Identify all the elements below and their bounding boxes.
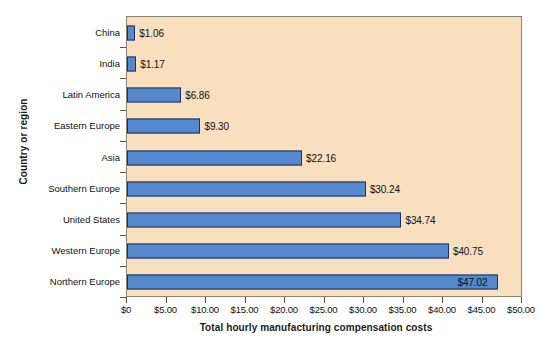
bar (127, 212, 401, 227)
bar (127, 244, 449, 259)
y-axis-tick (120, 235, 126, 236)
x-axis-tick-label: $45.00 (468, 304, 496, 315)
x-axis-tick-label: $30.00 (349, 304, 377, 315)
x-axis-tick (482, 297, 483, 303)
bar-value-label: $1.17 (140, 58, 165, 69)
bar (127, 181, 366, 196)
category-label: United States (0, 213, 120, 224)
bar-value-label: $47.02 (457, 277, 487, 288)
y-axis-tick (120, 47, 126, 48)
bar-value-label: $30.24 (370, 183, 400, 194)
bar-chart: Country or region ChinaIndiaLatin Americ… (0, 0, 542, 343)
bar (127, 119, 200, 134)
x-axis-tick-label: $5.00 (154, 304, 177, 315)
x-axis-tick (284, 297, 285, 303)
y-axis-tick (120, 141, 126, 142)
x-axis-tick (166, 297, 167, 303)
x-axis-tick (403, 297, 404, 303)
category-label: Asia (0, 151, 120, 162)
category-label: Northern Europe (0, 276, 120, 287)
plot-area: $1.06$1.17$6.86$9.30$22.16$30.24$34.74$4… (126, 16, 522, 297)
category-label-column: ChinaIndiaLatin AmericaEastern EuropeAsi… (0, 16, 120, 297)
category-label: Eastern Europe (0, 120, 120, 131)
x-axis-tick (521, 297, 522, 303)
y-axis-tick (120, 110, 126, 111)
category-label: Latin America (0, 89, 120, 100)
x-axis-tick-label: $20.00 (270, 304, 298, 315)
bar-value-label: $9.30 (204, 121, 229, 132)
x-axis-tick (126, 297, 127, 303)
x-axis-tick-label: $0 (121, 304, 131, 315)
y-axis-tick (120, 78, 126, 79)
x-axis-tick (442, 297, 443, 303)
y-axis-tick (120, 172, 126, 173)
x-axis-tick (324, 297, 325, 303)
bar-value-label: $6.86 (185, 90, 210, 101)
x-axis-tick-label: $15.00 (231, 304, 259, 315)
bar-value-label: $34.74 (405, 214, 435, 225)
x-axis-tick-label: $10.00 (191, 304, 219, 315)
category-label: China (0, 26, 120, 37)
x-axis-tick (205, 297, 206, 303)
y-axis-tick (120, 266, 126, 267)
bar-value-label: $40.75 (453, 246, 483, 257)
x-axis-tick-label: $40.00 (428, 304, 456, 315)
bar (127, 56, 136, 71)
x-axis-tick (363, 297, 364, 303)
x-axis-tick-label: $35.00 (389, 304, 417, 315)
bar (127, 275, 498, 290)
bar (127, 88, 181, 103)
bar (127, 25, 135, 40)
x-axis-tick-label: $25.00 (310, 304, 338, 315)
x-axis-tick-label: $50.00 (507, 304, 535, 315)
bar-value-label: $1.06 (139, 27, 164, 38)
x-axis-tick (245, 297, 246, 303)
category-label: Southern Europe (0, 182, 120, 193)
category-label: India (0, 57, 120, 68)
category-label: Western Europe (0, 245, 120, 256)
x-axis-title: Total hourly manufacturing compensation … (0, 322, 542, 333)
bar-value-label: $22.16 (306, 152, 336, 163)
bar (127, 150, 302, 165)
y-axis-tick (120, 203, 126, 204)
